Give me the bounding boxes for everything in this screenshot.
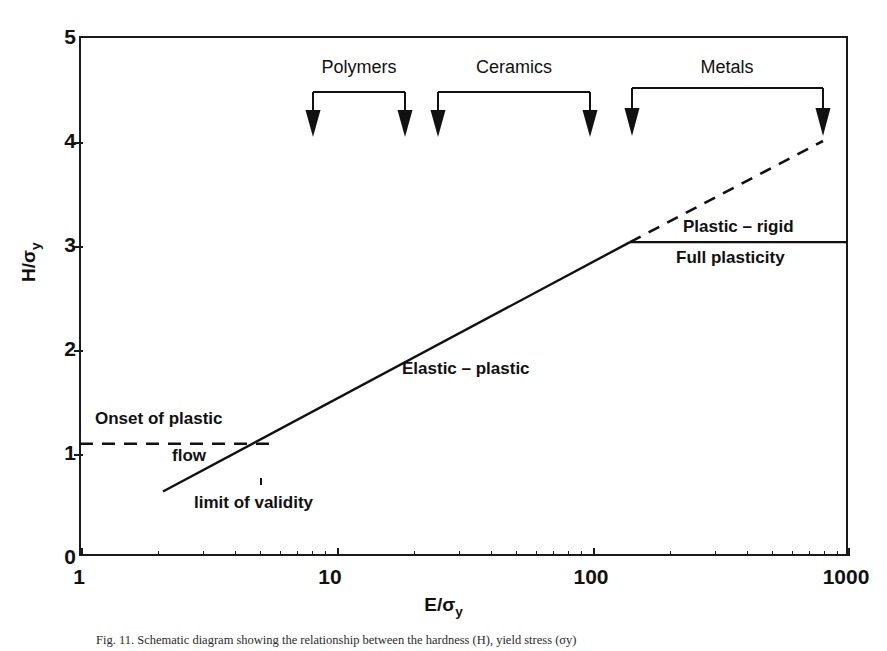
- x-tick-label-1000: 1000: [816, 566, 876, 587]
- annotation-full-plasticity: Full plasticity: [676, 249, 785, 267]
- y-tick-label-1: 1: [46, 442, 76, 463]
- x-axis-title-subscript: y: [455, 604, 463, 619]
- x-tick-500-minor: [772, 551, 773, 556]
- y-tick-label-4: 4: [46, 130, 76, 151]
- annotation-onset-of-plastic: Onset of plastic: [95, 410, 223, 428]
- y-tick-label-3: 3: [46, 234, 76, 255]
- figure-caption: Fig. 11. Schematic diagram showing the r…: [96, 632, 886, 651]
- x-tick-label-1: 1: [59, 566, 99, 587]
- x-tick-800-minor: [824, 551, 825, 556]
- x-tick-70-minor: [553, 551, 554, 556]
- x-tick-90-minor: [581, 551, 582, 556]
- x-tick-100: [593, 548, 595, 556]
- annotation-flow: flow: [172, 447, 206, 465]
- x-tick-50-minor: [516, 551, 517, 556]
- x-tick-80-minor: [568, 551, 569, 556]
- group-label-ceramics: Ceramics: [444, 57, 584, 78]
- x-tick-5-minor: [260, 551, 261, 556]
- x-tick-7-minor: [297, 551, 298, 556]
- x-axis-title: E/σy: [0, 594, 887, 619]
- y-axis-title: H/σy: [18, 242, 43, 282]
- x-tick-200-minor: [670, 551, 671, 556]
- x-tick-900-minor: [837, 551, 838, 556]
- x-tick-4-minor: [235, 551, 236, 556]
- x-tick-40-minor: [491, 551, 492, 556]
- x-tick-700-minor: [809, 551, 810, 556]
- x-tick-label-100: 100: [566, 566, 616, 587]
- y-tick-label-0: 0: [46, 546, 76, 567]
- group-label-polymers: Polymers: [289, 57, 429, 78]
- y-axis-title-subscript: y: [28, 242, 43, 250]
- x-tick-9-minor: [325, 551, 326, 556]
- annotation-elastic-plastic: Elastic – plastic: [402, 360, 530, 378]
- y-axis-title-main: H/σ: [18, 250, 39, 282]
- x-tick-20-minor: [414, 551, 415, 556]
- x-tick-300-minor: [715, 551, 716, 556]
- x-tick-30-minor: [459, 551, 460, 556]
- x-tick-400-minor: [747, 551, 748, 556]
- x-tick-1000: [848, 548, 850, 556]
- annotation-limit-of-validity: limit of validity: [194, 494, 313, 512]
- x-tick-10: [337, 548, 339, 556]
- x-tick-60-minor: [536, 551, 537, 556]
- x-tick-600-minor: [792, 551, 793, 556]
- figure-indentation-hardness-chart: 5 4 3 2 1 0 1 10 100 1000 H/σy E/σy: [0, 0, 887, 651]
- x-tick-8-minor: [312, 551, 313, 556]
- x-tick-1: [81, 548, 83, 556]
- plot-frame: [79, 36, 848, 556]
- group-label-metals: Metals: [657, 57, 797, 78]
- y-tick-label-2: 2: [46, 338, 76, 359]
- y-tick-label-5: 5: [46, 26, 76, 47]
- x-tick-2-minor: [158, 551, 159, 556]
- x-axis-title-main: E/σ: [424, 594, 455, 615]
- x-tick-label-10: 10: [310, 566, 350, 587]
- annotation-plastic-rigid: Plastic – rigid: [683, 218, 794, 236]
- x-tick-6-minor: [280, 551, 281, 556]
- x-tick-3-minor: [203, 551, 204, 556]
